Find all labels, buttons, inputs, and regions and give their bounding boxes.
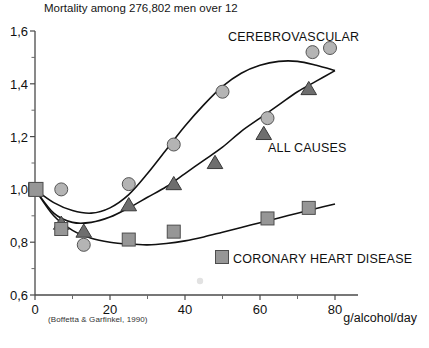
x-tick-label: 60 bbox=[240, 303, 280, 316]
axis-labels: 0,60,81,01,21,41,6020406080 bbox=[0, 0, 429, 348]
series-label-cerebrovascular: CEREBROVASCULAR bbox=[228, 31, 359, 44]
x-axis-title: g/alcohol/day bbox=[343, 312, 417, 325]
y-tick-label: 0,8 bbox=[0, 236, 28, 249]
source-citation: (Boffetta & Garfinkel, 1990) bbox=[48, 316, 148, 324]
y-tick-label: 1,6 bbox=[0, 25, 28, 38]
x-tick-label: 40 bbox=[165, 303, 205, 316]
y-tick-label: 0,6 bbox=[0, 289, 28, 302]
y-tick-label: 1,2 bbox=[0, 131, 28, 144]
mortality-alcohol-chart: Mortality among 276,802 men over 12 0,60… bbox=[0, 0, 429, 348]
y-tick-label: 1,4 bbox=[0, 78, 28, 91]
series-label-coronary-heart-disease: CORONARY HEART DISEASE bbox=[233, 253, 412, 266]
y-tick-label: 1,0 bbox=[0, 183, 28, 196]
series-label-all-causes: ALL CAUSES bbox=[268, 142, 347, 155]
